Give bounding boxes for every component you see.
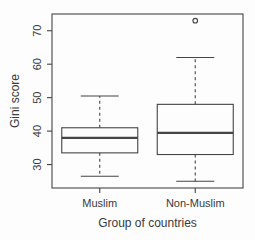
iqr-box-non-muslim — [157, 104, 233, 154]
boxplot-figure: Gini score Group of countries 3040506070… — [0, 0, 255, 240]
y-tick-label: 60 — [31, 58, 43, 70]
x-tick-label-muslim: Muslim — [82, 197, 117, 209]
y-tick-label: 30 — [31, 158, 43, 170]
y-tick-label: 40 — [31, 125, 43, 137]
x-tick-label-non-muslim: Non-Muslim — [166, 197, 225, 209]
plot-area: Gini score Group of countries 3040506070… — [0, 0, 255, 240]
outlier-point-non-muslim — [193, 18, 198, 23]
x-axis-title: Group of countries — [98, 216, 197, 230]
plot-frame — [52, 14, 243, 188]
iqr-box-muslim — [62, 128, 138, 153]
y-tick-label: 50 — [31, 92, 43, 104]
y-tick-label: 70 — [31, 25, 43, 37]
y-axis-title: Gini score — [8, 74, 22, 128]
